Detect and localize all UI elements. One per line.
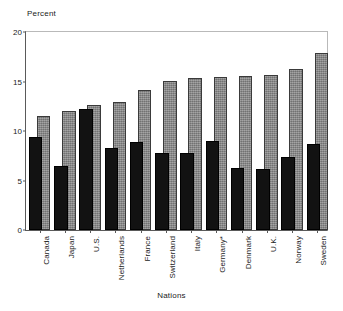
x-axis-title: Nations <box>0 291 343 300</box>
bar-group <box>79 32 101 230</box>
x-tick-label: Italy <box>193 236 202 251</box>
bar-front <box>281 157 295 230</box>
y-tick-label: 15 <box>13 77 22 86</box>
x-tick-mark <box>141 230 142 233</box>
bar-group <box>29 32 51 230</box>
bar-group <box>307 32 329 230</box>
x-tick-label: Switzerland <box>168 236 177 278</box>
bar-group <box>54 32 76 230</box>
bar-group <box>281 32 303 230</box>
x-tick-mark <box>242 230 243 233</box>
x-tick-mark <box>65 230 66 233</box>
bar-group <box>256 32 278 230</box>
bar-group <box>206 32 228 230</box>
bar-front <box>130 142 144 230</box>
x-tick-mark <box>191 230 192 233</box>
bar-front <box>29 137 43 230</box>
bar-front <box>105 148 119 230</box>
x-tick-mark <box>115 230 116 233</box>
bars-container <box>26 32 327 230</box>
y-axis-title: Percent <box>27 9 56 18</box>
x-tick-mark <box>40 230 41 233</box>
bar-front <box>180 153 194 230</box>
bar-front <box>54 166 68 230</box>
bar-front <box>79 109 93 230</box>
x-tick-label: Canada <box>42 236 51 265</box>
y-tick-label: 0 <box>18 226 22 235</box>
x-tick-mark <box>216 230 217 233</box>
x-tick-mark <box>317 230 318 233</box>
x-tick-label: Sweden <box>319 236 328 266</box>
bar-front <box>206 141 220 230</box>
x-tick-label: Netherlands <box>117 236 126 280</box>
x-tick-label: Japan <box>67 236 76 258</box>
bar-front <box>155 153 169 230</box>
y-tick-label: 5 <box>18 176 22 185</box>
x-tick-mark <box>166 230 167 233</box>
bar-group <box>231 32 253 230</box>
y-tick-label: 10 <box>13 127 22 136</box>
x-tick-label: U.S. <box>92 236 101 252</box>
x-tick-label: Norway <box>294 236 303 264</box>
bar-front <box>256 169 270 230</box>
bar-front <box>307 144 321 230</box>
x-tick-mark <box>292 230 293 233</box>
plot-area: 05101520 <box>25 31 328 231</box>
bar-chart-figure: Percent 05101520 CanadaJapanU.S.Netherla… <box>0 0 343 311</box>
bar-group <box>180 32 202 230</box>
bar-group <box>130 32 152 230</box>
bar-group <box>155 32 177 230</box>
x-tick-label: France <box>143 236 152 262</box>
x-tick-mark <box>267 230 268 233</box>
bar-front <box>231 168 245 230</box>
x-tick-label: Denmark <box>244 236 253 269</box>
x-tick-label: U.K. <box>269 236 278 252</box>
y-tick-label: 20 <box>13 28 22 37</box>
x-tick-mark <box>90 230 91 233</box>
x-tick-label: Germany* <box>218 236 227 273</box>
bar-group <box>105 32 127 230</box>
